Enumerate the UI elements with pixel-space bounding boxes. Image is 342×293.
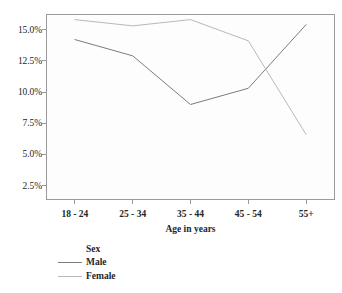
- legend: Sex Male Female: [58, 243, 238, 283]
- legend-label-female: Female: [86, 270, 116, 282]
- x-axis-title: Age in years: [46, 224, 335, 234]
- series-line-female: [75, 20, 306, 135]
- legend-title: Sex: [86, 243, 238, 255]
- legend-item-male[interactable]: Male: [58, 255, 238, 269]
- series-line-male: [75, 25, 306, 105]
- legend-swatch-female: [58, 276, 82, 277]
- legend-item-female[interactable]: Female: [58, 269, 238, 283]
- legend-label-male: Male: [86, 256, 107, 268]
- legend-swatch-male: [58, 262, 82, 263]
- chart-figure: 2.5%5.0%7.5%10.0%12.5%15.0% 18 - 2425 - …: [0, 0, 342, 293]
